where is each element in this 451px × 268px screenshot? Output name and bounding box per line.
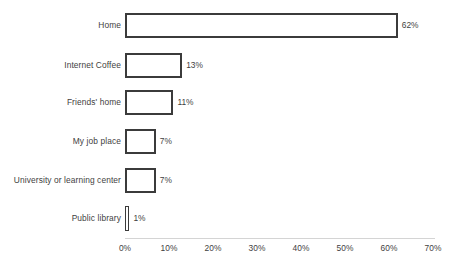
category-label: Friends' home [67,97,121,107]
bar[interactable] [125,168,156,193]
bar-group: 11% [125,89,194,115]
bar-group: 1% [125,205,146,231]
category-label: University or learning center [14,175,121,185]
bar[interactable] [125,129,156,154]
bar-value-label: 7% [160,137,172,145]
bar-group: 7% [125,167,172,193]
x-axis-tick: 50% [337,243,354,253]
category-label: Home [98,20,121,30]
horizontal-bar-chart: Home 62% Internet Coffee 13% Friends' ho… [0,0,451,268]
x-axis-line [125,238,435,239]
bar-group: 62% [125,12,419,38]
chart-row: Internet Coffee 13% [0,52,451,78]
bar-value-label: 11% [177,98,193,106]
x-axis-tick: 0% [119,243,131,253]
chart-row: Home 62% [0,12,451,38]
x-axis-tick: 40% [293,243,310,253]
chart-row: Public library 1% [0,205,451,231]
bar[interactable] [125,53,182,78]
bar-value-label: 7% [160,176,172,184]
chart-row: Friends' home 11% [0,89,451,115]
bar[interactable] [125,206,129,231]
bar-value-label: 1% [133,214,145,222]
x-axis-tick: 10% [161,243,178,253]
chart-row: My job place 7% [0,128,451,154]
bar[interactable] [125,90,173,115]
bar-group: 7% [125,128,172,154]
x-axis-tick-labels: 0% 10% 20% 30% 40% 50% 60% 70% [0,243,451,257]
plot-area: Home 62% Internet Coffee 13% Friends' ho… [0,0,451,268]
category-label: Internet Coffee [64,60,121,70]
bar-value-label: 62% [402,21,419,29]
category-label: My job place [73,136,121,146]
bar-value-label: 13% [186,61,203,69]
bar[interactable] [125,13,398,38]
x-axis-tick: 60% [381,243,398,253]
chart-row: University or learning center 7% [0,167,451,193]
x-axis-tick: 70% [425,243,442,253]
category-label: Public library [72,213,121,223]
x-axis-tick: 20% [205,243,222,253]
bar-group: 13% [125,52,203,78]
x-axis-tick: 30% [249,243,266,253]
